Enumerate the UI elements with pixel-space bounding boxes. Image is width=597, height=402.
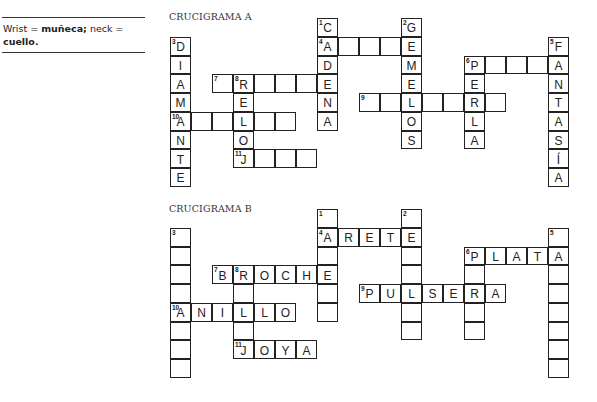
crossword-cell[interactable]: O (254, 265, 275, 284)
crossword-cell[interactable]: R (464, 93, 485, 112)
crossword-cell[interactable]: 4A (317, 228, 338, 247)
crossword-cell[interactable] (527, 56, 548, 75)
crossword-cell[interactable] (548, 284, 569, 303)
crossword-cell[interactable] (170, 340, 191, 359)
crossword-cell[interactable]: I (170, 56, 191, 75)
crossword-cell[interactable]: N (548, 74, 569, 93)
crossword-cell[interactable] (317, 303, 338, 322)
crossword-cell[interactable] (506, 56, 527, 75)
crossword-cell[interactable]: 11J (233, 149, 254, 168)
crossword-cell[interactable]: R (338, 228, 359, 247)
crossword-cell[interactable]: T (527, 247, 548, 266)
crossword-cell[interactable]: T (548, 93, 569, 112)
crossword-cell[interactable]: A (548, 56, 569, 75)
crossword-cell[interactable]: L (401, 284, 422, 303)
crossword-cell[interactable]: A (485, 284, 506, 303)
crossword-cell[interactable] (380, 37, 401, 56)
crossword-cell[interactable] (254, 74, 275, 93)
crossword-cell[interactable]: S (422, 284, 443, 303)
crossword-cell[interactable]: E (464, 74, 485, 93)
crossword-cell[interactable] (464, 265, 485, 284)
crossword-cell[interactable]: O (401, 112, 422, 131)
crossword-cell[interactable] (170, 322, 191, 341)
crossword-cell[interactable] (275, 74, 296, 93)
crossword-cell[interactable] (401, 247, 422, 266)
crossword-cell[interactable]: E (317, 265, 338, 284)
crossword-cell[interactable] (233, 322, 254, 341)
crossword-cell[interactable]: A (548, 168, 569, 187)
crossword-cell[interactable]: 2G (401, 18, 422, 37)
crossword-cell[interactable] (170, 247, 191, 266)
crossword-cell[interactable]: A (464, 131, 485, 150)
crossword-cell[interactable] (485, 56, 506, 75)
crossword-cell[interactable]: 7 (212, 74, 233, 93)
crossword-cell[interactable]: 3 (170, 228, 191, 247)
crossword-cell[interactable]: 9P (359, 284, 380, 303)
crossword-cell[interactable] (317, 247, 338, 266)
crossword-cell[interactable]: T (380, 228, 401, 247)
crossword-cell[interactable]: M (401, 56, 422, 75)
crossword-cell[interactable] (548, 265, 569, 284)
crossword-cell[interactable] (338, 37, 359, 56)
crossword-cell[interactable]: E (170, 168, 191, 187)
crossword-cell[interactable]: L (233, 112, 254, 131)
crossword-cell[interactable]: Í (548, 149, 569, 168)
crossword-cell[interactable]: T (170, 149, 191, 168)
crossword-cell[interactable] (275, 149, 296, 168)
crossword-cell[interactable]: M (170, 93, 191, 112)
crossword-cell[interactable]: 2 (401, 209, 422, 228)
crossword-cell[interactable]: 1 (317, 209, 338, 228)
crossword-cell[interactable] (170, 359, 191, 378)
crossword-cell[interactable]: 5F (548, 37, 569, 56)
crossword-cell[interactable]: 9 (359, 93, 380, 112)
crossword-cell[interactable]: O (254, 340, 275, 359)
crossword-cell[interactable]: E (359, 228, 380, 247)
crossword-cell[interactable] (212, 112, 233, 131)
crossword-cell[interactable]: N (191, 303, 212, 322)
crossword-cell[interactable] (170, 265, 191, 284)
crossword-cell[interactable] (254, 112, 275, 131)
crossword-cell[interactable] (548, 322, 569, 341)
crossword-cell[interactable] (317, 284, 338, 303)
crossword-cell[interactable] (254, 149, 275, 168)
crossword-cell[interactable]: L (464, 112, 485, 131)
crossword-cell[interactable] (443, 93, 464, 112)
crossword-cell[interactable]: S (401, 131, 422, 150)
crossword-cell[interactable] (191, 112, 212, 131)
crossword-cell[interactable] (464, 322, 485, 341)
crossword-cell[interactable]: E (401, 228, 422, 247)
crossword-cell[interactable]: 5 (548, 228, 569, 247)
crossword-cell[interactable]: 1C (317, 18, 338, 37)
crossword-cell[interactable] (401, 303, 422, 322)
crossword-cell[interactable]: R (464, 284, 485, 303)
crossword-cell[interactable]: I (212, 303, 233, 322)
crossword-cell[interactable]: L (401, 93, 422, 112)
crossword-cell[interactable]: 8R (233, 74, 254, 93)
crossword-cell[interactable]: O (275, 303, 296, 322)
crossword-cell[interactable] (485, 93, 506, 112)
crossword-cell[interactable]: A (548, 247, 569, 266)
crossword-cell[interactable]: E (443, 284, 464, 303)
crossword-cell[interactable] (401, 322, 422, 341)
crossword-cell[interactable]: 6P (464, 56, 485, 75)
crossword-cell[interactable]: D (317, 56, 338, 75)
crossword-cell[interactable]: E (317, 74, 338, 93)
crossword-cell[interactable] (380, 93, 401, 112)
crossword-cell[interactable]: 10A (170, 303, 191, 322)
crossword-cell[interactable]: S (548, 131, 569, 150)
crossword-cell[interactable]: 11J (233, 340, 254, 359)
crossword-cell[interactable]: O (233, 131, 254, 150)
crossword-cell[interactable]: A (506, 247, 527, 266)
crossword-cell[interactable] (422, 93, 443, 112)
crossword-cell[interactable] (401, 265, 422, 284)
crossword-cell[interactable] (296, 74, 317, 93)
crossword-cell[interactable]: 10A (170, 112, 191, 131)
crossword-cell[interactable]: L (485, 247, 506, 266)
crossword-cell[interactable]: E (401, 37, 422, 56)
crossword-cell[interactable]: E (233, 93, 254, 112)
crossword-cell[interactable]: A (317, 112, 338, 131)
crossword-cell[interactable]: C (275, 265, 296, 284)
crossword-cell[interactable]: N (170, 131, 191, 150)
crossword-cell[interactable]: 3D (170, 37, 191, 56)
crossword-cell[interactable] (170, 284, 191, 303)
